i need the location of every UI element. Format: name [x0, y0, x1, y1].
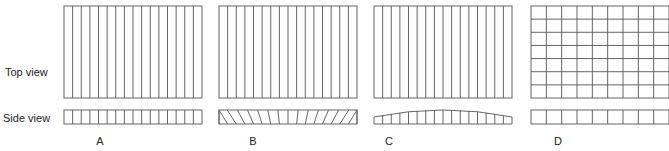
side-view-slant — [278, 110, 280, 124]
side-view-outline — [531, 110, 669, 124]
side-view-slant — [219, 110, 228, 124]
side-view-label: Side view — [3, 112, 50, 124]
side-view-slant — [237, 110, 245, 124]
side-view-slant — [340, 110, 349, 124]
structure-diagram: Top view Side view A B C D — [0, 0, 669, 151]
side-view-slant — [258, 110, 263, 124]
top-view-outline — [531, 6, 669, 98]
panel-b-label: B — [249, 135, 256, 147]
panel-a — [64, 6, 202, 124]
side-view-slant — [248, 110, 254, 124]
panel-d — [531, 6, 669, 124]
side-view-slant — [314, 110, 319, 124]
side-view-slant — [348, 110, 357, 124]
side-view-slant — [268, 110, 271, 124]
side-view-slant — [331, 110, 339, 124]
side-view-slant — [323, 110, 329, 124]
top-view-label: Top view — [5, 66, 48, 78]
panel-a-label: A — [96, 135, 104, 147]
side-view-slant — [305, 110, 308, 124]
side-view-slant — [297, 110, 299, 124]
panel-c-label: C — [385, 135, 393, 147]
panel-d-label: D — [554, 135, 562, 147]
side-view-slant — [227, 110, 236, 124]
panel-b — [219, 6, 357, 124]
panel-c — [374, 6, 512, 124]
